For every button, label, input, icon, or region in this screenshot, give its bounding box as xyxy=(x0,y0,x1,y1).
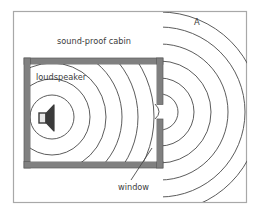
point-a-label: A xyxy=(194,17,200,27)
diagram-canvas: sound-proof cabin loudspeaker window A xyxy=(0,0,260,215)
figure-container: sound-proof cabin loudspeaker window A xyxy=(0,0,260,215)
window-label: window xyxy=(118,182,149,192)
loudspeaker-label: loudspeaker xyxy=(36,72,87,82)
cabin-label: sound-proof cabin xyxy=(57,36,131,46)
